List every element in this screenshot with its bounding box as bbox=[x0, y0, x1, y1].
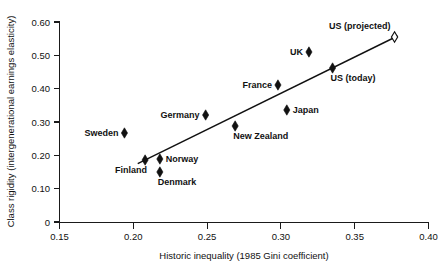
x-axis-ticks bbox=[60, 223, 429, 229]
y-axis: 0.60 0.50 0.40 0.30 0.20 0.10 0 Class ri… bbox=[5, 16, 60, 228]
x-tick-label: 0.30 bbox=[272, 231, 291, 242]
data-point-label: Denmark bbox=[158, 177, 198, 187]
filled-diamond-marker[interactable] bbox=[275, 80, 281, 90]
y-tick-label: 0.40 bbox=[32, 83, 51, 94]
data-point[interactable]: Denmark bbox=[157, 167, 198, 187]
y-tick-label: 0.20 bbox=[32, 150, 51, 161]
data-point-label: Germany bbox=[161, 110, 200, 120]
filled-diamond-marker[interactable] bbox=[157, 154, 163, 164]
data-point[interactable]: UK bbox=[290, 47, 312, 57]
data-point-label: Sweden bbox=[84, 128, 118, 138]
y-axis-title: Class rigidity (intergenerational earnin… bbox=[5, 16, 16, 228]
trend-line-path bbox=[138, 36, 398, 164]
data-point-label: US (today) bbox=[331, 73, 376, 83]
data-point-label: New Zealand bbox=[233, 131, 288, 141]
hollow-diamond-marker[interactable] bbox=[391, 32, 397, 42]
data-point-label: Japan bbox=[293, 105, 319, 115]
data-point[interactable]: New Zealand bbox=[232, 121, 288, 141]
y-axis-ticks bbox=[54, 22, 60, 222]
scatter-plot-canvas: 0.60 0.50 0.40 0.30 0.20 0.10 0 Class ri… bbox=[0, 0, 448, 269]
x-tick-label: 0.20 bbox=[124, 231, 143, 242]
y-tick-label: 0.50 bbox=[32, 50, 51, 61]
x-tick-label: 0.35 bbox=[345, 231, 364, 242]
x-axis-tick-labels: 0.15 0.20 0.25 0.30 0.35 0.40 bbox=[50, 231, 438, 242]
y-tick-label: 0.10 bbox=[32, 183, 51, 194]
trend-line bbox=[138, 36, 398, 164]
y-tick-label: 0.60 bbox=[32, 17, 51, 28]
filled-diamond-marker[interactable] bbox=[284, 105, 290, 115]
data-point[interactable]: France bbox=[242, 80, 281, 90]
data-point-label: Finland bbox=[115, 165, 147, 175]
data-point-label: US (projected) bbox=[329, 21, 391, 31]
data-point[interactable]: Norway bbox=[157, 154, 199, 164]
x-tick-label: 0.25 bbox=[198, 231, 217, 242]
y-tick-label: 0 bbox=[45, 217, 50, 228]
y-axis-tick-labels: 0.60 0.50 0.40 0.30 0.20 0.10 0 bbox=[32, 17, 51, 228]
data-point[interactable]: Sweden bbox=[84, 128, 127, 138]
x-axis: 0.15 0.20 0.25 0.30 0.35 0.40 Historic i… bbox=[50, 223, 438, 262]
filled-diamond-marker[interactable] bbox=[203, 110, 209, 120]
filled-diamond-marker[interactable] bbox=[329, 63, 335, 73]
great-gatsby-curve-chart: 0.60 0.50 0.40 0.30 0.20 0.10 0 Class ri… bbox=[0, 0, 448, 269]
filled-diamond-marker[interactable] bbox=[121, 128, 127, 138]
filled-diamond-marker[interactable] bbox=[142, 155, 148, 165]
data-point[interactable]: US (projected) bbox=[329, 21, 398, 42]
x-tick-label: 0.40 bbox=[419, 231, 438, 242]
x-axis-title: Historic inequality (1985 Gini coefficie… bbox=[159, 250, 328, 261]
filled-diamond-marker[interactable] bbox=[306, 47, 312, 57]
data-point[interactable]: Finland bbox=[115, 155, 148, 175]
x-tick-label: 0.15 bbox=[50, 231, 69, 242]
data-point-label: France bbox=[242, 80, 272, 90]
filled-diamond-marker[interactable] bbox=[232, 121, 238, 131]
data-points-group: SwedenFinlandDenmarkNorwayGermanyNew Zea… bbox=[84, 21, 397, 187]
data-point[interactable]: Japan bbox=[284, 105, 319, 115]
data-point-label: UK bbox=[290, 47, 303, 57]
y-tick-label: 0.30 bbox=[32, 117, 51, 128]
data-point-label: Norway bbox=[166, 154, 199, 164]
filled-diamond-marker[interactable] bbox=[157, 167, 163, 177]
data-point[interactable]: Germany bbox=[161, 110, 209, 120]
